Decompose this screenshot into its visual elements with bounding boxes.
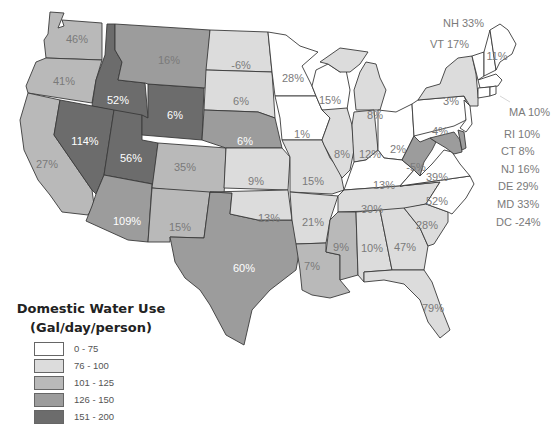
legend-item: 101 - 125	[34, 374, 176, 391]
callout-ri: RI 10%	[504, 128, 540, 140]
callout-ma: MA 10%	[509, 106, 550, 118]
legend-item: 151 - 200	[34, 408, 176, 425]
legend-swatch	[34, 410, 64, 424]
legend-swatch	[34, 342, 64, 356]
label-nd: -6%	[231, 59, 251, 71]
label-sd: 6%	[233, 95, 249, 107]
label-or: 41%	[53, 75, 75, 87]
legend: Domestic Water Use (Gal/day/person) 0 - …	[6, 299, 176, 425]
label-in: 12%	[359, 148, 381, 160]
label-al: 10%	[361, 242, 383, 254]
label-oh: 2%	[390, 143, 406, 155]
label-la: 7%	[304, 260, 320, 272]
label-va: 39%	[426, 171, 448, 183]
label-nc: 52%	[426, 195, 448, 207]
callout-nh: NH 33%	[443, 17, 484, 29]
label-me: 11%	[486, 50, 507, 62]
label-wa: 46%	[66, 33, 88, 45]
legend-item: 126 - 150	[34, 391, 176, 408]
callout-nj: NJ 16%	[501, 163, 540, 175]
label-tn: 30%	[361, 203, 383, 215]
legend-title: Domestic Water Use	[6, 299, 176, 318]
legend-item: 0 - 75	[34, 340, 176, 357]
label-nm: 15%	[169, 221, 191, 233]
label-ia: 1%	[294, 128, 310, 140]
legend-subtitle: (Gal/day/person)	[6, 318, 176, 337]
label-id: 52%	[107, 94, 129, 106]
legend-label: 126 - 150	[74, 394, 114, 405]
label-fl: 79%	[422, 302, 444, 314]
label-ok: 13%	[258, 212, 280, 224]
label-az: 109%	[113, 215, 141, 227]
state-ct[interactable]	[478, 87, 490, 98]
label-ut: 56%	[120, 152, 142, 164]
state-ri[interactable]	[490, 86, 496, 96]
label-ky: 13%	[373, 179, 395, 191]
label-ga: 47%	[394, 241, 416, 253]
label-ms: 9%	[333, 241, 349, 253]
callout-dc: DC -24%	[496, 216, 541, 228]
legend-label: 151 - 200	[74, 411, 114, 422]
label-mo: 15%	[302, 175, 324, 187]
label-nv: 114%	[71, 135, 99, 147]
state-nm[interactable]	[148, 188, 210, 242]
label-mi: 8%	[367, 109, 383, 121]
label-wi: 15%	[319, 94, 341, 106]
label-mn: 28%	[282, 72, 304, 84]
legend-label: 101 - 125	[74, 377, 114, 388]
legend-swatch	[34, 359, 64, 373]
label-tx: 60%	[233, 262, 255, 274]
state-mn[interactable]	[268, 32, 318, 96]
callout-ct: CT 8%	[501, 145, 534, 157]
legend-swatch	[34, 393, 64, 407]
legend-swatch	[34, 376, 64, 390]
label-wv: -5%	[406, 161, 426, 173]
label-mt: 16%	[158, 54, 180, 66]
label-sc: 28%	[416, 219, 438, 231]
legend-item: 76 - 100	[34, 357, 176, 374]
callout-vt: VT 17%	[430, 38, 469, 50]
label-ca: 27%	[36, 158, 58, 170]
label-ne: 6%	[237, 135, 253, 147]
label-co: 35%	[174, 161, 196, 173]
state-mi-lower[interactable]	[354, 62, 386, 110]
label-ny: 3%	[443, 95, 459, 107]
label-ar: 21%	[302, 216, 324, 228]
label-ks: 9%	[248, 175, 264, 187]
legend-label: 0 - 75	[74, 343, 98, 354]
legend-label: 76 - 100	[74, 360, 109, 371]
label-pa: 4%	[432, 125, 448, 137]
label-il: 8%	[334, 148, 350, 160]
leader-lines	[500, 96, 510, 102]
callout-md: MD 33%	[497, 198, 539, 210]
callout-de: DE 29%	[498, 180, 538, 192]
label-wy: 6%	[167, 109, 183, 121]
